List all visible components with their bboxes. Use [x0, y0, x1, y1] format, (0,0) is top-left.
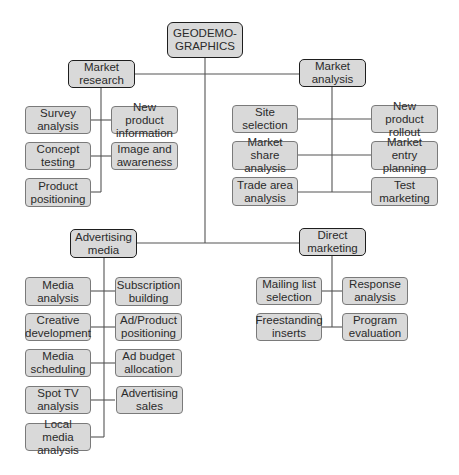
- leaf-node-advertising-sales: Advertising sales: [116, 386, 183, 414]
- leaf-node-freestanding-inserts: Freestanding inserts: [256, 313, 322, 341]
- leaf-node-creative-development: Creative development: [25, 313, 91, 341]
- leaf-node-ad-product-positioning: Ad/Product positioning: [115, 313, 182, 341]
- geodemographics-tree-diagram: GEODEMO- GRAPHICS Market research Survey…: [0, 0, 459, 475]
- leaf-node-new-product-information: New product information: [111, 106, 178, 134]
- leaf-node-ad-budget-allocation: Ad budget allocation: [115, 349, 182, 377]
- leaf-node-concept-testing: Concept testing: [25, 142, 91, 170]
- leaf-node-survey-analysis: Survey analysis: [25, 106, 91, 134]
- root-node-geodemographics: GEODEMO- GRAPHICS: [167, 22, 243, 58]
- branch-node-market-analysis: Market analysis: [299, 59, 366, 87]
- leaf-node-test-marketing: Test marketing: [371, 177, 438, 206]
- leaf-node-mailing-list-selection: Mailing list selection: [256, 277, 322, 305]
- leaf-node-media-scheduling: Media scheduling: [25, 349, 91, 377]
- leaf-node-market-entry-planning: Market entry planning: [371, 141, 438, 170]
- branch-node-direct-marketing: Direct marketing: [299, 228, 366, 256]
- leaf-node-response-analysis: Response analysis: [342, 277, 408, 305]
- leaf-node-subscription-building: Subscription building: [115, 277, 182, 306]
- leaf-node-program-evaluation: Program evaluation: [342, 313, 408, 341]
- branch-node-market-research: Market research: [68, 60, 135, 88]
- leaf-node-new-product-rollout: New product rollout: [371, 105, 438, 133]
- leaf-node-image-and-awareness: Image and awareness: [111, 142, 178, 170]
- leaf-node-spot-tv-analysis: Spot TV analysis: [25, 386, 91, 414]
- branch-node-advertising-media: Advertising media: [70, 229, 137, 258]
- leaf-node-local-media-analysis: Local media analysis: [25, 423, 91, 451]
- leaf-node-media-analysis: Media analysis: [25, 277, 91, 306]
- leaf-node-market-share-analysis: Market share analysis: [232, 141, 298, 170]
- leaf-node-site-selection: Site selection: [232, 105, 298, 133]
- leaf-node-product-positioning: Product positioning: [25, 178, 91, 207]
- leaf-node-trade-area-analysis: Trade area analysis: [232, 177, 298, 206]
